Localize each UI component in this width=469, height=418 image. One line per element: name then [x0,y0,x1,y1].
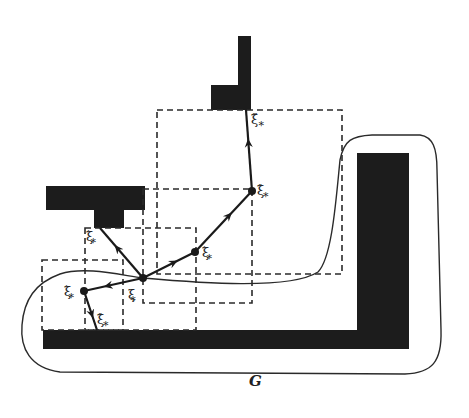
label-xi-prime-right: ξ′* [202,246,217,259]
obstacle-t-stem [94,208,124,228]
obstacle-bottom-bar [43,330,409,349]
diagram-canvas [0,0,469,418]
region-label-g: G [249,372,262,390]
node-xi-prime-left [80,287,88,295]
node-xi-prime-right [191,248,199,256]
obstacle-right-bar [357,153,409,349]
label-xi-double-prime-top: ξ″* [257,184,273,197]
label-xi-double-prime-bottom: ξ″* [97,313,113,326]
path-segment [84,291,97,330]
label-xi-prime-upper-left: ξ′* [86,230,101,243]
label-xi-star: ξ* [128,288,141,301]
path-segment [100,228,143,278]
node-xi-star [139,274,147,282]
obstacle-t-top-bar [46,186,145,210]
label-xi-prime-left: ξ′* [64,285,79,298]
label-xi-triple-prime: ξ‴* [251,113,269,126]
box-xi-prime-right [143,189,252,303]
node-xi-double-prime-top [248,187,256,195]
obstacle-top-l-base [211,85,251,110]
obstacles-group [43,36,409,349]
path-segment [195,191,252,252]
